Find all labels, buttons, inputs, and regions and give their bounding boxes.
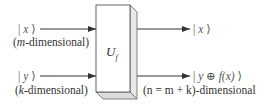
output-dimension: (n = m + k)-dimensional [143, 84, 256, 96]
input-y-dimension: (k-dimensional) [15, 84, 88, 96]
gate-bottom-face [96, 92, 137, 99]
input-x-ket: | x ⟩ [18, 23, 36, 35]
input-y-ket: | y ⟩ [18, 70, 36, 82]
gate-label: Uf [106, 44, 118, 62]
gate-side-face [130, 5, 137, 99]
input-x-dimension: (m-dimensional) [13, 36, 89, 48]
output-x-ket: | x ⟩ [193, 23, 211, 35]
output-y-ket: | y ⊕ f(x) ⟩ [193, 70, 242, 82]
